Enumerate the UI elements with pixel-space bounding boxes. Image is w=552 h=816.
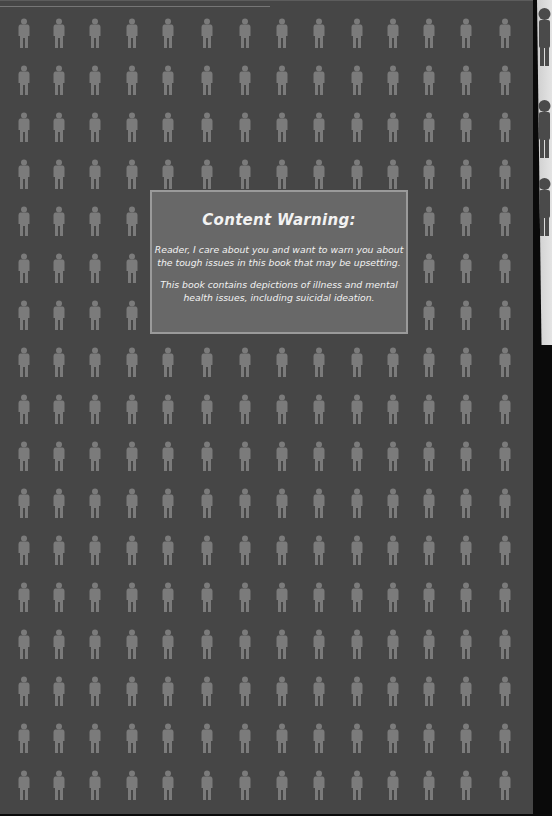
person-icon: [276, 723, 288, 753]
person-icon: [351, 112, 363, 142]
person-icon: [53, 629, 65, 659]
person-icon: [126, 253, 138, 283]
person-icon: [351, 676, 363, 706]
person-icon: [53, 723, 65, 753]
person-icon: [239, 347, 251, 377]
person-icon: [351, 18, 363, 48]
person-icon: [18, 347, 30, 377]
person-icon: [239, 535, 251, 565]
person-icon: [126, 65, 138, 95]
person-icon: [351, 441, 363, 471]
person-icon: [276, 770, 288, 800]
person-icon: [18, 206, 30, 236]
person-icon: [162, 582, 174, 612]
person-icon: [460, 488, 472, 518]
person-icon: [387, 770, 399, 800]
person-icon: [538, 100, 551, 164]
person-icon: [53, 65, 65, 95]
person-icon: [18, 394, 30, 424]
person-icon: [387, 159, 399, 189]
person-icon: [126, 347, 138, 377]
person-icon: [89, 488, 101, 518]
person-icon: [351, 159, 363, 189]
person-icon: [89, 770, 101, 800]
person-icon: [126, 535, 138, 565]
person-icon: [276, 629, 288, 659]
person-icon: [313, 112, 325, 142]
person-icon: [201, 394, 213, 424]
person-icon: [351, 65, 363, 95]
person-icon: [89, 723, 101, 753]
person-icon: [89, 300, 101, 330]
person-icon: [18, 18, 30, 48]
person-icon: [89, 629, 101, 659]
person-icon: [162, 394, 174, 424]
person-icon: [276, 159, 288, 189]
person-icon: [387, 488, 399, 518]
person-icon: [201, 535, 213, 565]
person-icon: [201, 723, 213, 753]
person-icon: [351, 347, 363, 377]
person-icon: [423, 253, 435, 283]
person-icon: [499, 18, 511, 48]
person-icon: [239, 629, 251, 659]
person-icon: [239, 770, 251, 800]
person-icon: [499, 347, 511, 377]
person-icon: [423, 770, 435, 800]
person-icon: [460, 441, 472, 471]
person-icon: [499, 65, 511, 95]
person-icon: [499, 159, 511, 189]
person-icon: [460, 300, 472, 330]
person-icon: [162, 770, 174, 800]
person-icon: [423, 112, 435, 142]
adjacent-page-edge: [537, 0, 552, 345]
person-icon: [423, 65, 435, 95]
person-icon: [162, 18, 174, 48]
person-icon: [499, 441, 511, 471]
person-icon: [276, 488, 288, 518]
person-icon: [18, 629, 30, 659]
person-icon: [460, 65, 472, 95]
person-icon: [89, 159, 101, 189]
person-icon: [53, 253, 65, 283]
person-icon: [201, 629, 213, 659]
person-icon: [460, 18, 472, 48]
person-icon: [423, 394, 435, 424]
person-icon: [423, 629, 435, 659]
warning-paragraph-2: This book contains depictions of illness…: [152, 278, 406, 304]
person-icon: [313, 770, 325, 800]
person-icon: [499, 770, 511, 800]
person-icon: [499, 629, 511, 659]
person-icon: [18, 65, 30, 95]
person-icon: [387, 676, 399, 706]
person-icon: [239, 159, 251, 189]
person-icon: [276, 347, 288, 377]
person-icon: [387, 723, 399, 753]
person-icon: [423, 535, 435, 565]
person-icon: [538, 8, 551, 72]
person-icon: [423, 723, 435, 753]
person-icon: [53, 159, 65, 189]
person-icon: [18, 488, 30, 518]
person-icon: [126, 770, 138, 800]
person-icon: [499, 535, 511, 565]
person-icon: [53, 535, 65, 565]
person-icon: [162, 347, 174, 377]
book-page: Content Warning: Reader, I care about yo…: [0, 0, 533, 814]
person-icon: [239, 488, 251, 518]
person-icon: [313, 723, 325, 753]
person-icon: [162, 488, 174, 518]
person-icon: [460, 253, 472, 283]
person-icon: [239, 723, 251, 753]
warning-line: Reader, I care about you and want to war…: [155, 244, 404, 255]
person-icon: [423, 159, 435, 189]
person-icon: [460, 394, 472, 424]
person-icon: [423, 300, 435, 330]
warning-line: health issues, including suicidal ideati…: [183, 292, 374, 303]
person-icon: [351, 770, 363, 800]
person-icon: [276, 65, 288, 95]
person-icon: [313, 18, 325, 48]
person-icon: [53, 441, 65, 471]
person-icon: [313, 582, 325, 612]
person-icon: [423, 206, 435, 236]
